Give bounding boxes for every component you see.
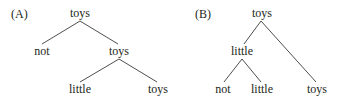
tree-edge [42,21,80,44]
tree-edge [242,59,261,82]
tree-b: (B)toyslittlenotlittletoys [195,6,327,96]
tree-node: toys [307,82,327,96]
tree-a: (A)toysnottoyslittletoys [11,6,168,96]
tree-edge [244,21,261,44]
tree-node: toys [109,44,129,58]
tree-node: toys [148,82,168,96]
tree-edge [224,59,242,82]
tree-node: not [215,82,231,96]
tree-node: little [69,82,91,96]
tree-node: little [231,44,253,58]
tree-diagram-canvas: (A)toysnottoyslittletoys (B)toyslittleno… [0,0,338,102]
panel-label: (B) [195,7,211,21]
tree-edge [80,21,118,44]
tree-edge [261,21,316,82]
tree-node: not [34,44,50,58]
tree-node: toys [252,6,272,20]
tree-node: little [251,82,273,96]
tree-node: toys [70,6,90,20]
panel-label: (A) [11,7,28,21]
tree-edge [119,59,157,82]
tree-edge [80,59,119,82]
